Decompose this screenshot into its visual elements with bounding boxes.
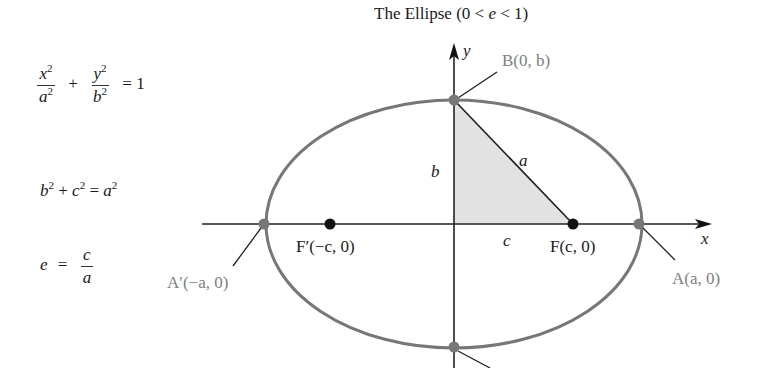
vertex-A-prime-dot <box>259 219 270 230</box>
label-A-prime: A′(−a, 0) <box>167 273 228 292</box>
vertex-A-dot <box>634 219 645 230</box>
vertex-B-dot <box>449 95 460 106</box>
label-segment-c: c <box>503 231 511 250</box>
x-axis-label: x <box>700 229 709 248</box>
vertex-bottom-dot <box>449 342 460 353</box>
leader-A <box>643 228 675 260</box>
focus-F-prime-dot <box>325 219 336 230</box>
focus-F-dot <box>568 219 579 230</box>
label-A: A(a, 0) <box>672 269 720 288</box>
y-axis-label: y <box>461 41 471 60</box>
ellipse-diagram: y x B(0, b) A′(−a, 0) A(a, 0) F′(−c, 0) … <box>0 0 763 368</box>
label-F: F(c, 0) <box>550 237 595 256</box>
label-segment-b: b <box>431 162 440 181</box>
label-B: B(0, b) <box>502 51 550 70</box>
label-F-prime: F′(−c, 0) <box>296 237 355 256</box>
leader-B <box>458 72 497 98</box>
leader-A-prime <box>233 228 261 266</box>
leader-bottom-vertex <box>458 351 490 368</box>
label-segment-a: a <box>519 151 528 170</box>
